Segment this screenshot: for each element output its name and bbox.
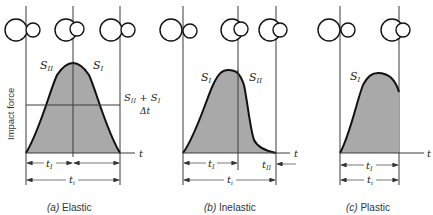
panel-a-area-left-label: SII [40, 59, 53, 73]
panel-c-plastic: t SI tI ti (c) Plastic [318, 6, 432, 213]
panel-b-area-right-label: SII [249, 71, 262, 85]
panel-a-caption: (a) Elastic [47, 202, 91, 213]
panel-c-caption: (c) Plastic [346, 202, 390, 213]
panel-c-t1-label: tI [366, 160, 373, 173]
panel-a-balls-before [5, 19, 40, 41]
panel-a-ti-label: ti [69, 174, 75, 186]
panel-b-ti-label: ti [227, 174, 233, 186]
panel-b-t-label: t [294, 148, 299, 159]
panel-c-balls-before [318, 19, 355, 41]
panel-c-t-label: t [427, 148, 432, 159]
panel-b-balls-compressed [221, 19, 248, 41]
panel-b-inelastic: t SI SII tI tII ti (b) Inelastic [160, 6, 299, 213]
panel-b-caption: (b) Inelastic [204, 202, 256, 213]
panel-a-elastic: t SII SI SII + SI Δt tI ti (a) Elastic [5, 6, 161, 213]
panel-b-balls-after [259, 19, 287, 41]
panel-b-balls-before [160, 19, 197, 41]
panel-c-force-area [340, 73, 399, 153]
panel-a-balls-after [100, 19, 135, 41]
panel-b-t2-label: tII [262, 159, 272, 172]
panel-c-area-label: SI [350, 70, 361, 84]
panel-b-area-left-label: SI [201, 71, 212, 85]
panel-a-area-right-label: SI [93, 59, 104, 73]
panel-a-balls-compressed [55, 19, 84, 41]
panel-a-average-numerator: SII + SI [124, 92, 161, 105]
panel-a-t1-label: tI [46, 158, 53, 171]
panel-a-t-label: t [139, 148, 144, 159]
y-axis-label: Impact force [5, 88, 16, 140]
panel-c-ti-label: ti [367, 174, 373, 186]
panel-a-average-denominator: Δt [139, 106, 150, 116]
panel-c-balls-merged [381, 19, 410, 41]
impact-force-diagram: t SII SI SII + SI Δt tI ti (a) Elastic I… [0, 0, 433, 215]
panel-b-t1-label: tI [208, 158, 215, 171]
